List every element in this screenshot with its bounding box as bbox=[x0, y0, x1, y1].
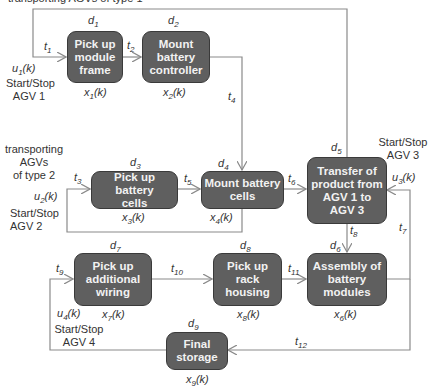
node-label-line: battery bbox=[328, 273, 366, 285]
transition-t10: t10 bbox=[171, 262, 183, 277]
input-u4: u4(k) bbox=[57, 307, 80, 322]
top-partial-label: transporting AGVs of type 1 bbox=[8, 0, 143, 5]
caption-start-stop-agv1: Start/StopAGV 1 bbox=[6, 77, 52, 103]
caption-start-stop-agv4: Start/StopAGV 4 bbox=[54, 323, 104, 349]
state-x2: x2(k) bbox=[163, 86, 186, 101]
transition-t11: t11 bbox=[288, 262, 299, 277]
caption-start-stop-agv2: Start/StopAGV 2 bbox=[10, 207, 60, 233]
delay-d7: d7 bbox=[110, 239, 121, 254]
node-mount-battery-cells[interactable]: Mount batterycells bbox=[201, 171, 284, 209]
node-label-line: cells bbox=[122, 197, 148, 209]
node-label-line: additional bbox=[86, 273, 140, 285]
node-label-line: Mount bbox=[159, 38, 193, 50]
node-label-line: Transfer of bbox=[317, 165, 376, 177]
transition-t3: t3 bbox=[74, 171, 82, 186]
state-x1: x1(k) bbox=[84, 86, 107, 101]
input-u2: u2(k) bbox=[34, 190, 57, 205]
node-label-line: housing bbox=[225, 286, 270, 298]
node-label-line: Pick up bbox=[93, 260, 134, 272]
delay-d2: d2 bbox=[168, 14, 179, 29]
node-assembly-battery-modules[interactable]: Assembly ofbatterymodules bbox=[307, 253, 387, 306]
state-x6: x6(k) bbox=[334, 308, 357, 323]
node-transfer-agv1-to-agv3[interactable]: Transfer ofproduct fromAGV 1 toAGV 3 bbox=[307, 157, 387, 224]
delay-d6: d6 bbox=[330, 239, 341, 254]
transition-t8: t8 bbox=[350, 224, 358, 239]
transition-t2: t2 bbox=[127, 39, 135, 54]
node-label-line: Pick up bbox=[227, 260, 268, 272]
transition-t6: t6 bbox=[288, 172, 296, 187]
state-x4: x4(k) bbox=[210, 211, 233, 226]
transition-t9: t9 bbox=[56, 262, 64, 277]
node-label-line: AGV 1 to bbox=[323, 191, 372, 203]
caption-start-stop-agv3: Start/StopAGV 3 bbox=[376, 136, 430, 162]
input-u1: u1(k) bbox=[12, 62, 35, 77]
delay-d8: d8 bbox=[240, 239, 251, 254]
node-label-line: rack bbox=[236, 273, 260, 285]
state-x7: x7(k) bbox=[102, 308, 125, 323]
input-u3: u3(k) bbox=[392, 171, 415, 186]
delay-d3: d3 bbox=[130, 156, 141, 171]
delay-d4: d4 bbox=[218, 157, 229, 172]
state-x9: x9(k) bbox=[186, 373, 209, 388]
transition-t7: t7 bbox=[399, 221, 407, 236]
node-pick-up-battery-cells[interactable]: Pick up batterycells bbox=[91, 171, 178, 209]
transition-t1: t1 bbox=[44, 40, 52, 55]
delay-d5: d5 bbox=[331, 141, 342, 156]
node-label-line: modules bbox=[323, 286, 370, 298]
node-label-line: Assembly of bbox=[313, 260, 381, 272]
node-pick-up-module-frame[interactable]: Pick upmoduleframe bbox=[67, 31, 123, 83]
transition-t5: t5 bbox=[184, 172, 192, 187]
node-label-line: Mount battery bbox=[204, 177, 280, 189]
node-mount-battery-controller[interactable]: Mountbatterycontroller bbox=[142, 31, 210, 83]
state-x3: x3(k) bbox=[122, 211, 145, 226]
node-label-line: Pick up battery bbox=[114, 171, 155, 196]
transition-t4: t4 bbox=[228, 90, 236, 105]
node-label-line: AGV 3 bbox=[330, 204, 365, 216]
node-label-line: controller bbox=[149, 64, 202, 76]
node-label-line: frame bbox=[79, 64, 110, 76]
transition-t12: t12 bbox=[295, 335, 307, 350]
node-label-line: product from bbox=[311, 178, 383, 190]
node-label-line: battery bbox=[157, 51, 195, 63]
node-label-line: wiring bbox=[96, 286, 130, 298]
delay-d9: d9 bbox=[188, 317, 199, 332]
node-label-line: Pick up bbox=[75, 38, 116, 50]
node-final-storage[interactable]: Finalstorage bbox=[166, 332, 228, 370]
node-label-line: module bbox=[75, 51, 116, 63]
node-label-line: Final bbox=[184, 338, 211, 350]
node-label-line: storage bbox=[176, 351, 218, 363]
node-pick-up-additional-wiring[interactable]: Pick upadditionalwiring bbox=[74, 253, 152, 306]
node-pick-up-rack-housing[interactable]: Pick uprackhousing bbox=[213, 253, 282, 306]
caption-transporting-agvs-type2: transportingAGVsof type 2 bbox=[4, 143, 64, 182]
delay-d1: d1 bbox=[88, 14, 99, 29]
state-x8: x8(k) bbox=[237, 308, 260, 323]
node-label-line: cells bbox=[230, 190, 256, 202]
